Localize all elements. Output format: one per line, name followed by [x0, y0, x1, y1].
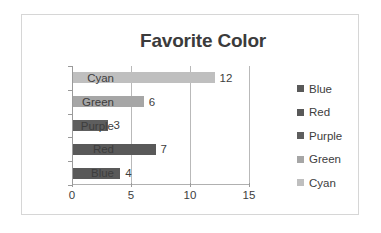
gridline-15 — [249, 66, 250, 185]
bar-label-blue: 4 — [125, 167, 131, 179]
legend-swatch-icon — [297, 156, 304, 163]
category-axis-labels: Cyan Green Purple Red Blue — [66, 66, 114, 185]
legend-item-purple[interactable]: Purple — [297, 124, 357, 148]
bar-label-purple: 3 — [113, 119, 119, 131]
value-tick-label-15: 15 — [243, 189, 256, 201]
value-tick-mark — [131, 183, 132, 187]
legend-swatch-icon — [297, 132, 304, 139]
value-axis-labels: 0 5 10 15 — [72, 187, 249, 205]
chart-frame: Favorite Color 12 6 3 7 — [21, 14, 359, 215]
category-label-cyan: Cyan — [66, 72, 114, 84]
value-tick-mark — [249, 183, 250, 187]
legend-item-red[interactable]: Red — [297, 101, 357, 125]
value-tick-label-5: 5 — [128, 189, 134, 201]
value-tick-label-0: 0 — [69, 189, 75, 201]
category-label-green: Green — [66, 96, 114, 108]
bar-label-green: 6 — [149, 96, 155, 108]
legend-label-red: Red — [309, 106, 330, 118]
value-tick-mark — [72, 183, 73, 187]
legend-label-green: Green — [309, 153, 341, 165]
legend-label-purple: Purple — [309, 130, 342, 142]
legend-label-cyan: Cyan — [309, 177, 336, 189]
legend-swatch-icon — [297, 85, 304, 92]
legend-swatch-icon — [297, 179, 304, 186]
chart-title: Favorite Color — [22, 30, 358, 52]
chart-legend: Blue Red Purple Green Cyan — [297, 77, 357, 195]
legend-item-cyan[interactable]: Cyan — [297, 171, 357, 195]
category-label-purple: Purple — [66, 120, 114, 132]
legend-item-blue[interactable]: Blue — [297, 77, 357, 101]
category-label-blue: Blue — [66, 167, 114, 179]
bar-label-cyan: 12 — [220, 72, 233, 84]
value-tick-mark — [190, 183, 191, 187]
category-label-red: Red — [66, 143, 114, 155]
legend-item-green[interactable]: Green — [297, 148, 357, 172]
bar-label-red: 7 — [161, 143, 167, 155]
legend-swatch-icon — [297, 109, 304, 116]
legend-label-blue: Blue — [309, 83, 332, 95]
value-tick-label-10: 10 — [184, 189, 197, 201]
plot-area: 12 6 3 7 4 Cyan Green Purple Red Blue — [72, 66, 249, 185]
